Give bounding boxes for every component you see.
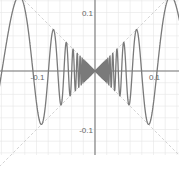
y-tick-label: -0.1	[79, 126, 93, 135]
envelope-guide-lines	[0, 0, 179, 173]
envelope-line-positive	[0, 0, 179, 173]
y-tick-label: 0.1	[82, 9, 94, 18]
x-tick-label: 0.1	[149, 73, 161, 82]
envelope-line-negative	[0, 0, 179, 173]
function-plot: -0.10.10.1-0.1	[0, 0, 179, 173]
x-tick-label: -0.1	[31, 73, 45, 82]
function-curve	[0, 0, 179, 124]
